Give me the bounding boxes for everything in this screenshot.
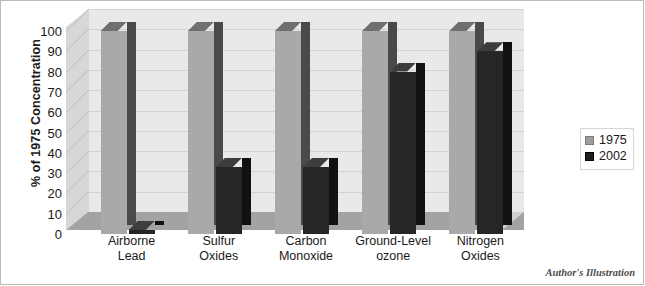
bar-top xyxy=(362,22,388,31)
y-tick-20: 20 xyxy=(48,187,62,200)
x-axis-category-labels: AirborneLeadSulfurOxidesCarbonMonoxideGr… xyxy=(66,234,524,274)
credit-text: Author's Illustration xyxy=(545,267,635,278)
bar-airborne-lead-2002 xyxy=(129,221,155,234)
bar-side xyxy=(416,63,425,225)
bar-top xyxy=(216,158,242,167)
bar-face xyxy=(390,72,416,234)
bar-side xyxy=(503,42,512,225)
x-label-line: Oxides xyxy=(427,249,534,264)
legend-label: 2002 xyxy=(599,150,627,163)
bar-side xyxy=(329,158,338,225)
y-tick-60: 60 xyxy=(48,106,62,119)
y-tick-40: 40 xyxy=(48,147,62,160)
y-tick-50: 50 xyxy=(48,127,62,140)
y-tick-80: 80 xyxy=(48,66,62,79)
bar-face xyxy=(216,167,242,234)
bar-top xyxy=(477,42,503,51)
x-label-line: Nitrogen xyxy=(427,234,534,249)
bar-face xyxy=(449,31,475,234)
bar-top xyxy=(390,63,416,72)
y-tick-10: 10 xyxy=(48,208,62,221)
bar-ground-level-ozone-1975 xyxy=(362,22,388,234)
y-tick-100: 100 xyxy=(40,25,62,38)
legend-swatch-1975 xyxy=(585,136,594,145)
y-tick-0: 0 xyxy=(55,228,62,241)
bar-side xyxy=(155,221,164,225)
bar-face xyxy=(188,31,214,234)
plot-area xyxy=(66,9,524,230)
y-tick-30: 30 xyxy=(48,167,62,180)
y-tick-90: 90 xyxy=(48,45,62,58)
y-tick-70: 70 xyxy=(48,86,62,99)
bar-top xyxy=(188,22,214,31)
legend-label: 1975 xyxy=(599,134,627,147)
bar-top xyxy=(101,22,127,31)
bar-chart: % of 1975 Concentration 0102030405060708… xyxy=(0,0,645,286)
bar-face xyxy=(303,167,329,234)
bar-side xyxy=(127,22,136,225)
bar-face xyxy=(275,31,301,234)
bar-carbon-monoxide-1975 xyxy=(275,22,301,234)
legend-swatch-2002 xyxy=(585,152,594,161)
bar-top xyxy=(303,158,329,167)
bar-side xyxy=(242,158,251,225)
bar-face xyxy=(101,31,127,234)
gridline-100 xyxy=(88,9,524,10)
bar-airborne-lead-1975 xyxy=(101,22,127,234)
bar-sulfur-oxides-1975 xyxy=(188,22,214,234)
bar-ground-level-ozone-2002 xyxy=(390,63,416,234)
bar-nitrogen-oxides-1975 xyxy=(449,22,475,234)
x-label-nitrogen-oxides: NitrogenOxides xyxy=(427,234,534,264)
bar-carbon-monoxide-2002 xyxy=(303,158,329,234)
bar-top xyxy=(449,22,475,31)
bar-top xyxy=(275,22,301,31)
bar-face xyxy=(477,51,503,234)
bar-top xyxy=(129,221,155,230)
bar-nitrogen-oxides-2002 xyxy=(477,42,503,234)
bar-face xyxy=(362,31,388,234)
bar-sulfur-oxides-2002 xyxy=(216,158,242,234)
legend-item-1975: 1975 xyxy=(585,133,627,148)
legend-item-2002: 2002 xyxy=(585,149,627,164)
chart-legend: 19752002 xyxy=(580,128,634,170)
y-axis-tick-labels: 0102030405060708090100 xyxy=(26,9,62,227)
